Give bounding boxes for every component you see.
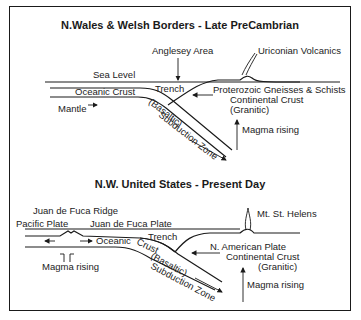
subduction-diagram: N.Wales & Welsh Borders - Late PreCambri… xyxy=(0,0,361,320)
label-mt-st-helens: Mt. St. Helens xyxy=(257,208,317,219)
volcano-icon xyxy=(242,53,257,75)
label-magma-rising: Magma rising xyxy=(42,261,99,272)
label-anglesey: Anglesey Area xyxy=(152,45,214,56)
panel-title: N.Wales & Welsh Borders - Late PreCambri… xyxy=(61,19,299,31)
label-subduction-zone: Subduction Zone xyxy=(157,109,220,162)
panel-late-precambrian: N.Wales & Welsh Borders - Late PreCambri… xyxy=(45,19,346,162)
panel-title: N.W. United States - Present Day xyxy=(95,178,266,190)
label-granitic: (Granitic) xyxy=(230,104,269,115)
label-magma-rising: Magma rising xyxy=(247,279,304,290)
label-trench: Trench xyxy=(155,83,184,94)
label-magma-rising: Magma rising xyxy=(242,124,299,135)
label-jdf-plate: Juan de Fuca Plate xyxy=(90,218,172,229)
label-sea-level: Sea Level xyxy=(93,69,135,80)
label-ridge: Juan de Fuca Ridge xyxy=(33,205,118,216)
label-oceanic-crust: Oceanic Crust xyxy=(75,86,136,97)
label-trench: Trench xyxy=(148,231,177,242)
label-granitic: (Granitic) xyxy=(258,261,297,272)
label-mantle: Mantle xyxy=(58,103,87,114)
label-oceanic: Oceanic xyxy=(96,235,131,246)
panel-present-day: N.W. United States - Present Day Juan de… xyxy=(16,178,317,303)
label-pacific-plate: Pacific Plate xyxy=(16,218,68,229)
volcano-icon xyxy=(245,208,250,230)
label-volcanics: Uriconian Volcanics xyxy=(258,45,341,56)
